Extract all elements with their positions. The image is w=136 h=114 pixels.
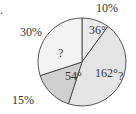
slice-36deg-outer-label: 10% — [96, 1, 118, 15]
slice-162deg-outer-label: ? — [118, 69, 123, 83]
slice-162deg-inner-label: 162° — [95, 66, 118, 80]
slice-36deg-inner-label: 36° — [89, 23, 106, 37]
slice-unknown-outer-label: 30% — [20, 25, 42, 39]
slice-unknown-inner-label: ? — [58, 46, 63, 60]
corner-marker: . — [0, 3, 3, 17]
slice-54deg-outer-label: 15% — [12, 93, 34, 107]
slice-54deg-inner-label: 54° — [65, 69, 82, 83]
pie-chart: . 36°10%162°?54°15%?30% — [0, 0, 136, 114]
